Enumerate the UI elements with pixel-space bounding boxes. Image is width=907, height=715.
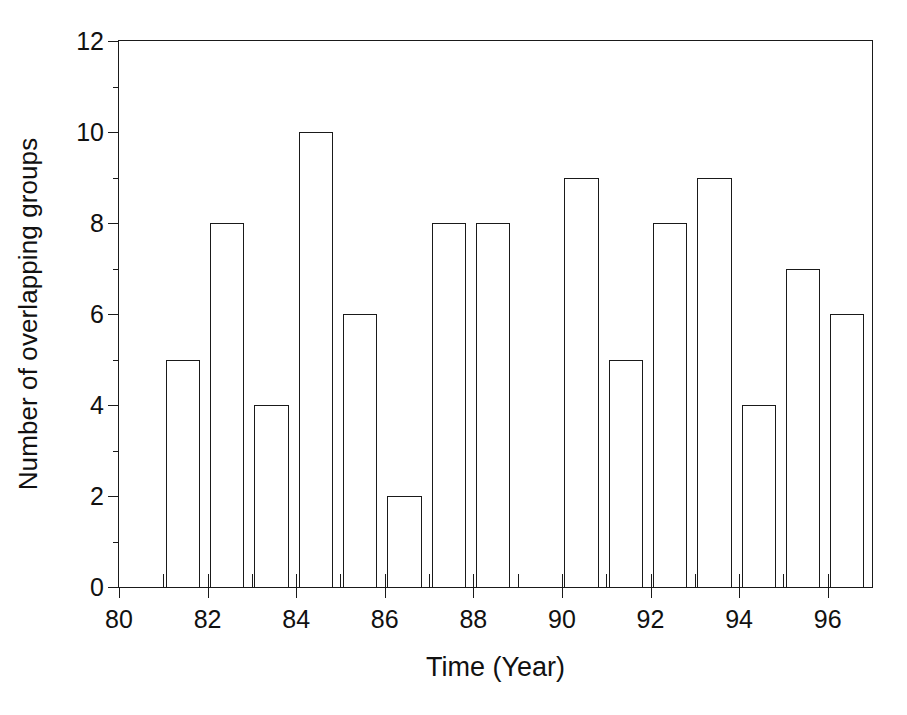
y-tick-label: 4 bbox=[90, 393, 104, 418]
x-tick-major bbox=[651, 587, 652, 598]
x-tick-major bbox=[296, 587, 297, 598]
y-tick-minor bbox=[113, 542, 119, 543]
x-tick-major bbox=[473, 587, 474, 598]
x-tick-minor bbox=[296, 574, 297, 587]
bar bbox=[210, 223, 244, 587]
bar bbox=[299, 132, 333, 587]
bar bbox=[609, 360, 643, 588]
x-tick-minor bbox=[208, 574, 209, 587]
y-tick-label: 2 bbox=[90, 484, 104, 509]
x-tick-label: 88 bbox=[459, 607, 487, 632]
bar bbox=[830, 314, 864, 587]
y-tick-minor bbox=[113, 451, 119, 452]
y-tick-major bbox=[108, 587, 119, 588]
x-tick-label: 92 bbox=[637, 607, 665, 632]
bar bbox=[653, 223, 687, 587]
y-tick-label: 0 bbox=[90, 575, 104, 600]
bar bbox=[254, 405, 288, 587]
y-tick-major bbox=[108, 496, 119, 497]
x-tick-minor bbox=[518, 574, 519, 587]
bar bbox=[564, 178, 598, 588]
y-tick-label: 10 bbox=[76, 120, 104, 145]
bar bbox=[387, 496, 421, 587]
x-tick-minor bbox=[429, 574, 430, 587]
x-tick-minor bbox=[562, 574, 563, 587]
y-tick-major bbox=[108, 405, 119, 406]
x-tick-major bbox=[828, 587, 829, 598]
x-axis-title: Time (Year) bbox=[118, 652, 873, 683]
x-tick-label: 84 bbox=[282, 607, 310, 632]
y-tick-minor bbox=[113, 87, 119, 88]
y-tick-major bbox=[108, 41, 119, 42]
x-tick-minor bbox=[739, 574, 740, 587]
x-tick-minor bbox=[473, 574, 474, 587]
bar bbox=[786, 269, 820, 588]
x-tick-minor bbox=[606, 574, 607, 587]
plot-area: 024681012 808284868890929496 bbox=[118, 40, 873, 588]
y-tick-major bbox=[108, 132, 119, 133]
bar bbox=[166, 360, 200, 588]
x-tick-major bbox=[208, 587, 209, 598]
bars-layer bbox=[119, 41, 872, 587]
bar bbox=[343, 314, 377, 587]
y-tick-minor bbox=[113, 178, 119, 179]
x-tick-minor bbox=[252, 574, 253, 587]
y-tick-label: 12 bbox=[76, 29, 104, 54]
y-tick-major bbox=[108, 314, 119, 315]
y-tick-major bbox=[108, 223, 119, 224]
y-tick-minor bbox=[113, 360, 119, 361]
x-tick-major bbox=[119, 587, 120, 598]
y-axis-title: Number of overlapping groups bbox=[10, 40, 46, 588]
x-tick-label: 94 bbox=[725, 607, 753, 632]
x-tick-minor bbox=[163, 574, 164, 587]
x-tick-major bbox=[739, 587, 740, 598]
x-tick-minor bbox=[340, 574, 341, 587]
x-tick-label: 96 bbox=[814, 607, 842, 632]
x-tick-major bbox=[385, 587, 386, 598]
x-tick-label: 90 bbox=[548, 607, 576, 632]
x-tick-major bbox=[562, 587, 563, 598]
y-tick-minor bbox=[113, 269, 119, 270]
x-tick-label: 86 bbox=[371, 607, 399, 632]
figure-container: Number of overlapping groups 024681012 8… bbox=[0, 0, 907, 715]
x-tick-minor bbox=[783, 574, 784, 587]
y-tick-label: 6 bbox=[90, 302, 104, 327]
x-tick-minor bbox=[385, 574, 386, 587]
x-tick-minor bbox=[695, 574, 696, 587]
x-tick-minor bbox=[828, 574, 829, 587]
bar bbox=[476, 223, 510, 587]
bar bbox=[432, 223, 466, 587]
bar bbox=[742, 405, 776, 587]
x-tick-label: 82 bbox=[194, 607, 222, 632]
y-tick-label: 8 bbox=[90, 211, 104, 236]
bar bbox=[697, 178, 731, 588]
x-tick-label: 80 bbox=[105, 607, 133, 632]
x-tick-minor bbox=[651, 574, 652, 587]
